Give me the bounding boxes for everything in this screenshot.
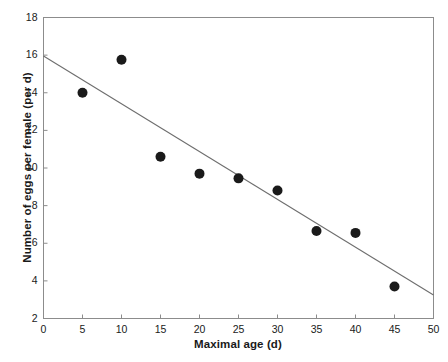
data-point xyxy=(312,226,322,236)
x-tick-label: 30 xyxy=(265,323,291,335)
data-point xyxy=(351,228,361,238)
data-point xyxy=(390,282,400,292)
data-point xyxy=(156,152,166,162)
x-tick-label: 50 xyxy=(421,323,447,335)
data-point xyxy=(273,186,283,196)
tick-marks xyxy=(44,18,434,319)
x-tick-label: 5 xyxy=(70,323,96,335)
plot-canvas xyxy=(0,0,448,362)
x-axis-title: Maximal age (d) xyxy=(43,338,433,350)
x-tick-label: 25 xyxy=(226,323,252,335)
data-points xyxy=(78,55,400,292)
x-tick-label: 15 xyxy=(148,323,174,335)
data-point xyxy=(78,88,88,98)
x-tick-label: 10 xyxy=(109,323,135,335)
data-point xyxy=(117,55,127,65)
x-tick-label: 0 xyxy=(31,323,57,335)
scatter-plot-figure: 24681012141618 05101520253035404550 Numb… xyxy=(0,0,448,362)
y-axis-title: Number of eggs per female (per d) xyxy=(18,17,36,318)
x-tick-label: 40 xyxy=(343,323,369,335)
data-point xyxy=(234,173,244,183)
data-point xyxy=(195,169,205,179)
axes-frame xyxy=(44,18,434,319)
x-tick-label: 35 xyxy=(304,323,330,335)
x-tick-label: 20 xyxy=(187,323,213,335)
x-tick-label: 45 xyxy=(382,323,408,335)
